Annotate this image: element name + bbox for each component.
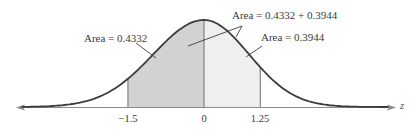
leader-line-right-area bbox=[246, 46, 262, 57]
tick-label-1-25: 1.25 bbox=[251, 114, 269, 125]
combined-area-label: Area = 0.4332 + 0.3944 bbox=[232, 10, 337, 21]
tick-label-zero: 0 bbox=[201, 114, 206, 125]
leader-line-left-area bbox=[136, 43, 156, 58]
z-axis-label: z bbox=[400, 101, 404, 112]
right-area-label: Area = 0.3944 bbox=[261, 32, 324, 43]
right-shaded-region bbox=[204, 20, 260, 107]
normal-curve-diagram bbox=[0, 0, 417, 129]
tick-label-neg-1-5: −1.5 bbox=[118, 114, 137, 125]
left-area-label: Area = 0.4332 bbox=[84, 33, 147, 44]
